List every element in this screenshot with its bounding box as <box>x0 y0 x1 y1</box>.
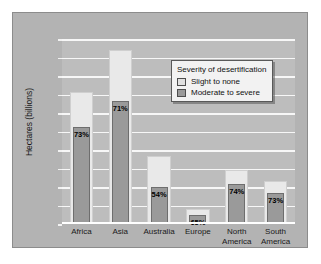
gridline <box>62 150 295 152</box>
bar-data-label: 54% <box>152 190 167 199</box>
y-tick-mark <box>58 206 62 208</box>
bar-moderate-to-severe: 71% <box>112 101 129 224</box>
x-category-label: NorthAmerica <box>217 227 256 246</box>
chart-figure: Hectares (billions) 2.01.81.61.41.21.00.… <box>12 12 308 248</box>
y-tick-mark <box>58 39 62 41</box>
x-category-label: Europe <box>179 227 218 237</box>
legend-swatch-moderate-to-severe <box>177 89 186 97</box>
y-tick-mark <box>58 113 62 115</box>
y-tick-mark <box>58 58 62 60</box>
gridline <box>62 132 295 134</box>
chart-legend: Severity of desertification Slight to no… <box>171 60 273 102</box>
y-axis-label: Hectares (billions) <box>24 62 34 182</box>
x-category-label: SouthAmerica <box>256 227 295 246</box>
bar-moderate-to-severe: 74% <box>228 184 245 224</box>
x-category-label: Australia <box>140 227 179 237</box>
legend-label-slight-to-none: Slight to none <box>191 77 240 86</box>
bar-moderate-to-severe: 73% <box>73 127 90 224</box>
bar-data-label: 73% <box>268 196 283 205</box>
y-tick-mark <box>58 224 62 226</box>
legend-item-moderate-to-severe: Moderate to severe <box>177 88 266 97</box>
legend-title: Severity of desertification <box>177 65 266 74</box>
x-axis-line <box>62 222 295 224</box>
gridline <box>62 39 295 41</box>
legend-item-slight-to-none: Slight to none <box>177 77 266 86</box>
gridline <box>62 187 295 189</box>
x-category-label: Africa <box>62 227 101 237</box>
y-tick-mark <box>58 95 62 97</box>
gridline <box>62 113 295 115</box>
bar-moderate-to-severe: 54% <box>151 187 168 224</box>
gridline <box>62 169 295 171</box>
bar-data-label: 74% <box>229 187 244 196</box>
legend-swatch-slight-to-none <box>177 78 186 86</box>
y-tick-mark <box>58 169 62 171</box>
gridline <box>62 58 295 60</box>
bar-moderate-to-severe: 73% <box>267 193 284 224</box>
y-tick-mark <box>58 150 62 152</box>
y-tick-mark <box>58 132 62 134</box>
y-tick-mark <box>58 187 62 189</box>
bar-data-label: 73% <box>74 130 89 139</box>
x-category-label: Asia <box>101 227 140 237</box>
bar-data-label: 71% <box>113 104 128 113</box>
legend-label-moderate-to-severe: Moderate to severe <box>191 88 260 97</box>
gridline <box>62 206 295 208</box>
y-tick-mark <box>58 76 62 78</box>
